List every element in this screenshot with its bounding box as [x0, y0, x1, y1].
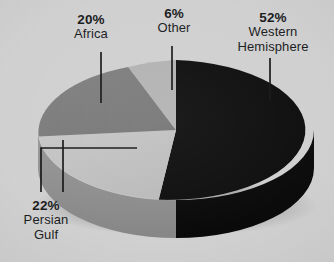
slice-name-persian-gulf-line2: Gulf — [4, 228, 88, 243]
slice-percent-africa: 20% — [52, 12, 130, 27]
slice-name-other: Other — [140, 21, 208, 36]
slice-name-persian-gulf-line1: Persian — [4, 213, 88, 228]
slice-percent-persian-gulf: 22% — [4, 198, 88, 213]
pie-chart-figure: 52% Western Hemisphere 20% Africa 6% Oth… — [0, 0, 334, 262]
slice-label-africa: 20% Africa — [52, 12, 130, 42]
slice-percent-western-hemisphere: 52% — [215, 10, 331, 25]
slice-label-western-hemisphere: 52% Western Hemisphere — [215, 10, 331, 54]
leader-line-persian-gulf — [41, 148, 137, 192]
slice-name-africa: Africa — [52, 27, 130, 42]
slice-name-western-hemisphere-line2: Hemisphere — [215, 40, 331, 55]
slice-percent-other: 6% — [140, 6, 208, 21]
slice-label-other: 6% Other — [140, 6, 208, 36]
slice-label-persian-gulf: 22% Persian Gulf — [4, 198, 88, 242]
slice-name-western-hemisphere-line1: Western — [215, 25, 331, 40]
